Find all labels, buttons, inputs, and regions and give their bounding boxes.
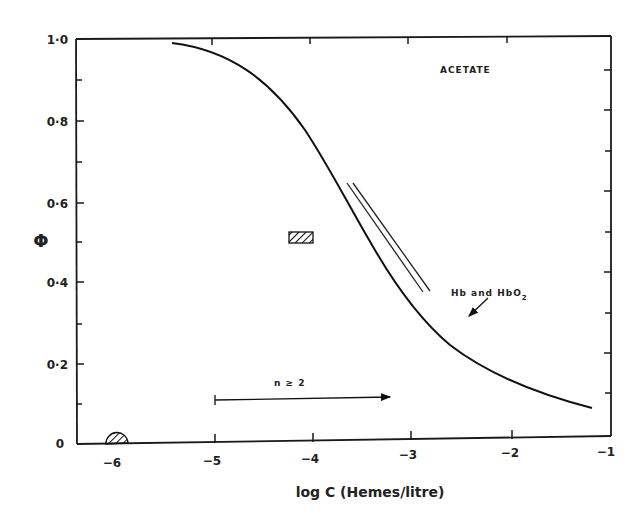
hb-hbo2-curve [172,43,592,408]
y-tick-label: 0·4 [47,276,68,290]
hatched-rectangle-marker [289,232,313,243]
acetate-label: ACETATE [440,65,491,75]
x-tick-label: −1 [597,445,615,459]
y-tick-labels: 1·0 0·8 0·6 0·4 0·2 0 [47,33,68,451]
n-label: n ≥ 2 [274,378,305,388]
y-tick-label: 1·0 [47,33,68,47]
y-tick-label: 0 [56,437,64,451]
hatched-semicircle-marker [106,432,128,444]
x-tick-label: −3 [399,448,417,462]
parallel-bars [347,183,430,292]
y-tick-label: 0·8 [47,115,68,129]
y-axis-title: Φ [33,230,48,251]
n-range-arrow [215,397,390,400]
y-tick-label: 0·6 [47,197,68,211]
hb-label-text: Hb and HbO [451,288,522,298]
x-tick-label: −5 [203,454,221,468]
y-axis-ticks-right [604,70,611,393]
y-tick-label: 0·2 [47,358,68,372]
x-tick-labels: −6 −5 −4 −3 −2 −1 [103,445,615,470]
hb-arrow [469,298,488,316]
hb-label-subscript: 2 [522,294,528,302]
x-tick-label: −6 [103,456,121,470]
plot-frame [76,36,611,444]
x-tick-label: −4 [301,452,319,466]
x-axis-title: log C (Hemes/litre) [296,484,445,500]
x-tick-label: −2 [501,446,519,460]
chart: 1·0 0·8 0·6 0·4 0·2 0 −6 −5 −4 −3 −2 −1 … [0,0,643,523]
hb-hbo2-label: Hb and HbO2 [451,288,528,302]
